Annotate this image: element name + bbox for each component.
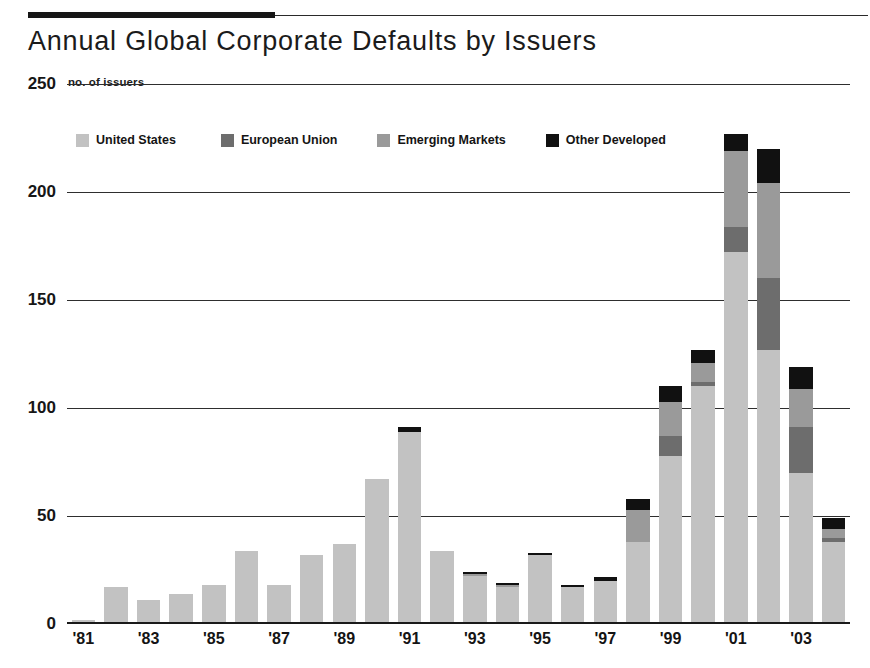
bar-segment (202, 585, 225, 624)
bar-segment (691, 363, 714, 382)
bar-1998[interactable] (626, 499, 649, 624)
bar-1983[interactable] (137, 600, 160, 624)
x-axis: '81'83'85'87'89'91'93'95'97'99'01'03 (67, 630, 850, 658)
x-axis-tick-label: '99 (660, 630, 682, 648)
bar-segment (757, 350, 780, 624)
bar-series-container (67, 84, 850, 624)
bar-1988[interactable] (300, 555, 323, 624)
bar-segment (594, 581, 617, 624)
bar-segment (757, 149, 780, 184)
bar-segment (724, 227, 747, 253)
page-title: Annual Global Corporate Defaults by Issu… (28, 26, 597, 57)
bar-1999[interactable] (659, 386, 682, 624)
bar-segment (300, 555, 323, 624)
bar-1992[interactable] (430, 551, 453, 624)
x-axis-tick-label: '89 (334, 630, 356, 648)
plot-area (67, 84, 850, 624)
bar-segment (137, 600, 160, 624)
bar-segment (822, 529, 845, 538)
x-axis-tick-label: '81 (73, 630, 95, 648)
bar-segment (365, 479, 388, 624)
title-rule (28, 12, 275, 18)
bar-segment (333, 544, 356, 624)
bar-segment (691, 386, 714, 624)
bar-segment (789, 367, 812, 389)
bar-segment (267, 585, 290, 624)
bar-segment (659, 436, 682, 455)
bar-segment (169, 594, 192, 624)
y-axis-tick-label: 250 (10, 74, 56, 94)
bar-1985[interactable] (202, 585, 225, 624)
bar-1993[interactable] (463, 572, 486, 624)
axis-baseline (67, 622, 850, 624)
bar-1994[interactable] (496, 583, 519, 624)
bar-1996[interactable] (561, 585, 584, 624)
y-axis-tick-label: 150 (10, 290, 56, 310)
bar-segment (398, 432, 421, 624)
x-axis-tick-label: '97 (595, 630, 617, 648)
x-axis-tick-label: '93 (464, 630, 486, 648)
bar-segment (430, 551, 453, 624)
x-axis-tick-label: '83 (138, 630, 160, 648)
bar-segment (659, 386, 682, 401)
bar-segment (724, 134, 747, 151)
bar-segment (691, 350, 714, 363)
bar-2001[interactable] (724, 134, 747, 624)
title-hairline (275, 15, 868, 16)
y-axis-tick-label: 200 (10, 182, 56, 202)
bar-segment (724, 252, 747, 624)
bar-segment (626, 510, 649, 542)
y-axis-tick-label: 50 (10, 506, 56, 526)
y-axis-tick-label: 0 (10, 614, 56, 634)
bar-segment (496, 587, 519, 624)
bar-1997[interactable] (594, 577, 617, 625)
bar-2000[interactable] (691, 350, 714, 624)
bar-segment (235, 551, 258, 624)
bar-2004[interactable] (822, 518, 845, 624)
bar-segment (463, 576, 486, 624)
y-axis-tick-label: 100 (10, 398, 56, 418)
bar-1984[interactable] (169, 594, 192, 624)
bar-segment (757, 183, 780, 278)
bar-segment (822, 518, 845, 529)
bar-segment (626, 542, 649, 624)
bar-1982[interactable] (104, 587, 127, 624)
x-axis-tick-label: '87 (268, 630, 290, 648)
bar-segment (659, 456, 682, 624)
bar-segment (757, 278, 780, 349)
bar-1990[interactable] (365, 479, 388, 624)
bar-2002[interactable] (757, 149, 780, 624)
bar-segment (626, 499, 649, 510)
bar-segment (528, 555, 551, 624)
bar-segment (789, 427, 812, 472)
bar-segment (659, 402, 682, 437)
bar-segment (789, 473, 812, 624)
bar-segment (822, 542, 845, 624)
bar-segment (561, 587, 584, 624)
bar-segment (789, 389, 812, 428)
y-axis: 050100150200250 (0, 84, 56, 624)
x-axis-tick-label: '03 (790, 630, 812, 648)
x-axis-tick-label: '95 (529, 630, 551, 648)
bar-1991[interactable] (398, 427, 421, 624)
bar-1995[interactable] (528, 553, 551, 624)
bar-1989[interactable] (333, 544, 356, 624)
x-axis-tick-label: '91 (399, 630, 421, 648)
bar-segment (724, 151, 747, 227)
x-axis-tick-label: '01 (725, 630, 747, 648)
bar-1987[interactable] (267, 585, 290, 624)
bar-segment (104, 587, 127, 624)
bar-2003[interactable] (789, 367, 812, 624)
x-axis-tick-label: '85 (203, 630, 225, 648)
bar-1986[interactable] (235, 551, 258, 624)
